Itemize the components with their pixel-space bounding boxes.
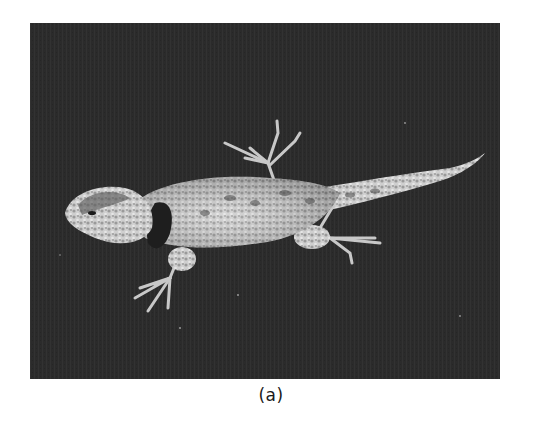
- lizard-photo: [30, 23, 500, 379]
- lizard-shoulder: [168, 247, 196, 271]
- figure-caption: (a): [0, 385, 542, 405]
- lizard-illustration: [30, 23, 500, 379]
- figure: (a): [0, 0, 542, 428]
- lizard-eye: [88, 211, 96, 215]
